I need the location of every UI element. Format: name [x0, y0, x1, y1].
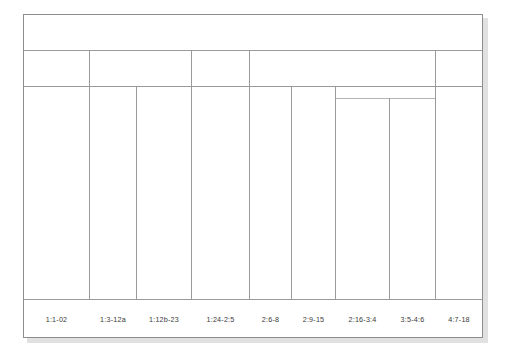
second-band-cell-2[interactable]: [90, 51, 191, 86]
rule-v-b3-2: [291, 86, 292, 299]
second-band-cell-5[interactable]: [436, 51, 482, 86]
segment-label-2[interactable]: 1:3-12a: [90, 300, 136, 338]
segment-label-3[interactable]: 1:12b-23: [137, 300, 191, 338]
rule-v-b3-1: [136, 86, 137, 299]
second-band-cell-1[interactable]: [24, 51, 89, 86]
rule-v-b2-1: [89, 50, 90, 299]
rule-v-b2-4: [435, 50, 436, 299]
segment-label-9[interactable]: 4:7-18: [436, 300, 482, 338]
diagram-canvas: 1:1-02 1:3-12a 1:12b-23 1:24-2:5 2:6-8 2…: [0, 0, 511, 355]
second-band-cell-4[interactable]: [250, 51, 435, 86]
segment-label-6[interactable]: 2:9-15: [292, 300, 335, 338]
second-band-cell-3[interactable]: [192, 51, 249, 86]
top-band-cell[interactable]: [24, 15, 482, 50]
segment-label-7[interactable]: 2:16-3:4: [336, 300, 389, 338]
segment-label-1[interactable]: 1:1-02: [24, 300, 89, 338]
segment-label-8[interactable]: 3:5-4:6: [390, 300, 435, 338]
rule-v-b2-2: [191, 50, 192, 299]
nested-group-region[interactable]: [335, 98, 435, 299]
rule-h-second-band: [24, 86, 482, 87]
segment-label-4[interactable]: 1:24-2:5: [192, 300, 249, 338]
segment-label-5[interactable]: 2:6-8: [250, 300, 291, 338]
diagram-frame: 1:1-02 1:3-12a 1:12b-23 1:24-2:5 2:6-8 2…: [23, 14, 483, 338]
rule-v-b2-3: [249, 50, 250, 299]
